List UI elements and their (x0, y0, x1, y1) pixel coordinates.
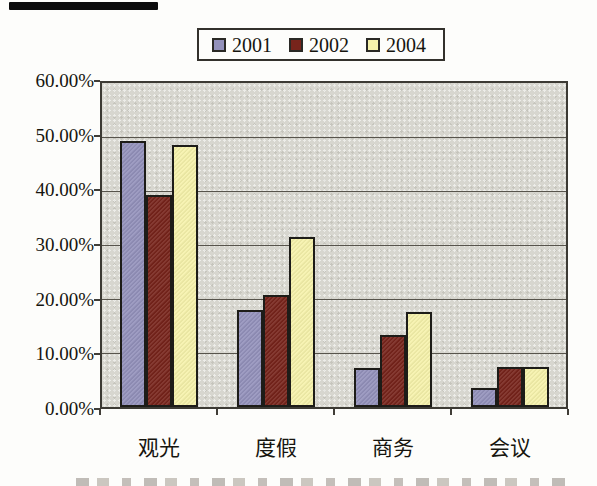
y-axis-tick-label: 50.00% (8, 125, 94, 147)
scan-artifact-top-bar (9, 2, 158, 10)
bar-2004-cat1 (289, 237, 315, 407)
bar-2001-cat1 (237, 310, 263, 407)
legend-color-swatch (289, 38, 303, 52)
x-axis-category-label: 商务 (334, 436, 451, 460)
bar-2004-cat3 (523, 367, 549, 407)
x-axis-category-label: 会议 (451, 436, 568, 460)
legend-label: 2001 (232, 35, 272, 55)
legend-color-swatch (212, 38, 226, 52)
x-axis-tick-mark (216, 409, 218, 415)
bar-2002-cat0 (146, 195, 172, 407)
gridline (102, 137, 566, 138)
bar-2004-cat0 (172, 145, 198, 407)
bar-2002-cat2 (380, 335, 406, 407)
y-axis-tick-label: 0.00% (8, 398, 94, 420)
legend-color-swatch (366, 38, 380, 52)
y-axis-tick-label: 60.00% (8, 70, 94, 92)
y-axis-tick-label: 20.00% (8, 289, 94, 311)
x-axis-tick-mark (99, 409, 101, 415)
y-axis-tick-label: 30.00% (8, 234, 94, 256)
chart-legend: 200120022004 (197, 28, 445, 61)
plot-area (100, 81, 568, 409)
bar-2001-cat3 (471, 388, 497, 407)
bar-2002-cat1 (263, 295, 289, 407)
x-axis-category-label: 度假 (217, 436, 334, 460)
legend-item: 2004 (366, 35, 426, 55)
x-axis-tick-mark (450, 409, 452, 415)
legend-label: 2002 (309, 35, 349, 55)
bar-2001-cat2 (354, 368, 380, 407)
x-axis-category-label: 观光 (100, 436, 217, 460)
bar-2004-cat2 (406, 312, 432, 407)
legend-label: 2004 (386, 35, 426, 55)
legend-item: 2001 (212, 35, 272, 55)
y-axis-tick-label: 40.00% (8, 179, 94, 201)
x-axis-tick-mark (333, 409, 335, 415)
scanned-chart-page: 200120022004 0.00%10.00%20.00%30.00%40.0… (0, 0, 597, 486)
legend-item: 2002 (289, 35, 349, 55)
bar-2001-cat0 (120, 141, 146, 407)
y-axis-tick-label: 10.00% (8, 343, 94, 365)
x-axis-tick-mark (567, 409, 569, 415)
caption-cutoff-artifact (76, 478, 566, 486)
bar-2002-cat3 (497, 367, 523, 407)
